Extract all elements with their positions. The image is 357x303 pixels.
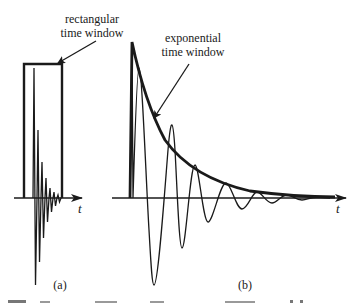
annotation-rectangular-line1: rectangular xyxy=(65,12,119,26)
panel-a: t rectangular time window (a) xyxy=(14,12,124,292)
panel-label-b: (b) xyxy=(238,278,252,292)
annotation-rectangular-line2: time window xyxy=(61,26,124,40)
panel-label-a: (a) xyxy=(53,278,66,292)
rectangular-window xyxy=(24,64,62,198)
exponential-window xyxy=(130,42,335,198)
signal-a xyxy=(33,68,62,285)
panel-b: t exponential time window (b) xyxy=(112,31,346,292)
annotation-exponential-line1: exponential xyxy=(165,31,222,45)
annotation-exponential-line2: time window xyxy=(162,45,225,59)
signal-b xyxy=(130,42,330,285)
figure: t rectangular time window (a) t exponent… xyxy=(0,0,357,303)
axis-label-t-b: t xyxy=(336,201,340,216)
annotation-arrow-b xyxy=(154,64,189,118)
axis-label-t-a: t xyxy=(78,201,82,216)
annotation-arrow-a xyxy=(58,41,96,63)
